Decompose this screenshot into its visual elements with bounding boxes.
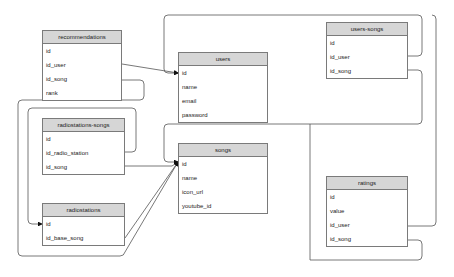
table-header: users	[179, 53, 267, 66]
field-id-song: id_song	[327, 64, 407, 78]
field-id-user: id_user	[43, 58, 121, 72]
table-users[interactable]: users id name email password	[178, 52, 268, 123]
edge-radiostations-songs	[125, 162, 178, 238]
table-header: radiostations-songs	[43, 119, 124, 132]
table-radiostations-songs[interactable]: radiostations-songs id id_radio_station …	[42, 118, 125, 175]
table-header: recommendations	[43, 31, 121, 44]
table-users-songs[interactable]: users-songs id id_user id_song	[326, 22, 408, 79]
field-email: email	[179, 94, 267, 108]
field-icon-url: icon_url	[179, 185, 267, 199]
field-name: name	[179, 80, 267, 94]
table-radiostations[interactable]: radiostations id id_base_song	[42, 203, 125, 246]
field-name: name	[179, 171, 267, 185]
field-id: id	[327, 190, 407, 204]
field-id: id	[43, 132, 124, 146]
field-id: id	[43, 217, 124, 231]
table-header: users-songs	[327, 23, 407, 36]
field-id-user: id_user	[327, 50, 407, 64]
field-id-song: id_song	[43, 72, 121, 86]
field-id-song: id_song	[43, 160, 124, 174]
field-password: password	[179, 108, 267, 122]
field-id: id	[327, 36, 407, 50]
field-id: id	[43, 44, 121, 58]
table-header: radiostations	[43, 204, 124, 217]
table-songs[interactable]: songs id name icon_url youtube_id	[178, 143, 268, 214]
table-header: songs	[179, 144, 267, 157]
field-id-base-song: id_base_song	[43, 231, 124, 245]
table-recommendations[interactable]: recommendations id id_user id_song rank	[42, 30, 122, 101]
edge-rs-songs	[125, 162, 178, 166]
field-id: id	[179, 66, 267, 80]
table-ratings[interactable]: ratings id value id_user id_song	[326, 176, 408, 247]
field-rank: rank	[43, 86, 121, 100]
field-id-user: id_user	[327, 218, 407, 232]
field-id-radio-station: id_radio_station	[43, 146, 124, 160]
field-id: id	[179, 157, 267, 171]
table-header: ratings	[327, 177, 407, 190]
field-value: value	[327, 204, 407, 218]
field-id-song: id_song	[327, 232, 407, 246]
er-diagram-canvas: recommendations id id_user id_song rank …	[0, 0, 454, 277]
field-youtube-id: youtube_id	[179, 199, 267, 213]
edge-recommendations-users	[122, 64, 178, 73]
